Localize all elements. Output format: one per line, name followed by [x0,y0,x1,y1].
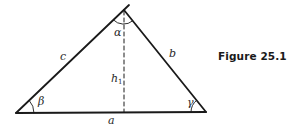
side-c-line [16,5,129,113]
angle-beta-arc [29,101,34,113]
side-b-label: b [169,48,176,59]
side-c-label: c [60,51,66,62]
altitude-subscript: 1 [118,78,122,86]
figure-caption: Figure 25.1 [218,50,287,62]
side-a-label: a [108,115,115,126]
angle-alpha-arc [114,20,133,24]
angle-gamma-label: γ [187,97,194,108]
angle-beta-label: β [38,96,44,107]
triangle-diagram [0,0,295,130]
side-a-line [16,112,206,113]
altitude-h1-label: h1 [111,73,123,86]
angle-alpha-label: α [114,27,121,38]
